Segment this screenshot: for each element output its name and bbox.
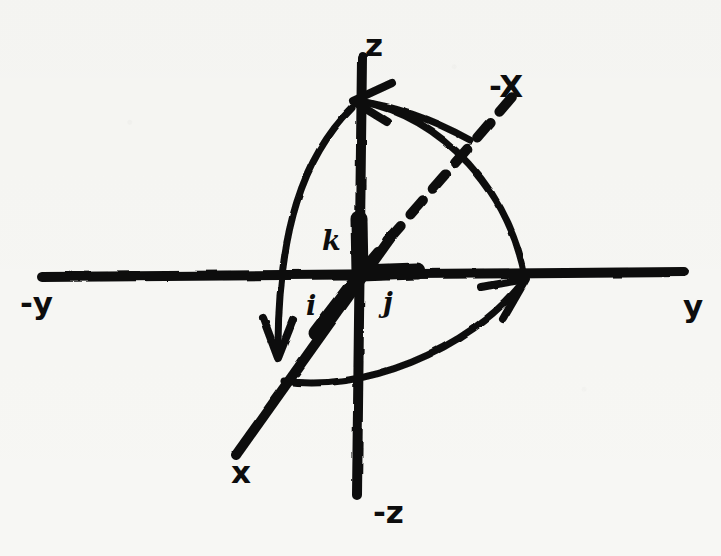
- unit-vector-j: [360, 271, 417, 273]
- z-axis-label: z: [365, 30, 383, 61]
- negative-x-axis-label: -X: [489, 71, 523, 102]
- negative-y-axis-label: -y: [20, 288, 53, 319]
- x-axis-label: x: [231, 457, 251, 488]
- y-axis-label: y: [683, 291, 703, 322]
- coordinate-axes-diagram: [0, 0, 721, 556]
- unit-vector-i-label: i: [306, 292, 316, 319]
- unit-vector-k-label: k: [322, 227, 341, 254]
- negative-z-axis-label: -z: [373, 497, 404, 528]
- figure-canvas: z -z y -y x -X k j i: [0, 0, 721, 556]
- unit-vector-j-label: j: [383, 289, 393, 316]
